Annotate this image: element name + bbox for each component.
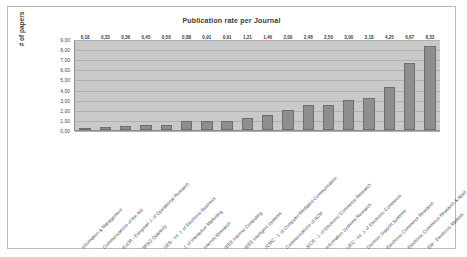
y-axis-tick-label: 6,00 — [60, 67, 70, 73]
chart-frame: Publication rate per Journal # of papers… — [7, 6, 456, 249]
bar[interactable]: 0,91 — [201, 121, 212, 130]
x-axis-tick-label: Information & Management — [81, 207, 124, 250]
bar-column[interactable]: 0,33 — [95, 40, 115, 130]
bar[interactable]: 0,36 — [120, 126, 131, 130]
bar[interactable]: 0,50 — [161, 125, 172, 130]
bar[interactable]: 1,21 — [242, 118, 253, 130]
bar-column[interactable]: 1,46 — [258, 40, 278, 130]
bar-value-label: 0,50 — [162, 35, 171, 40]
x-axis-tick-label: Decision Support Systems — [365, 208, 407, 250]
bar-value-label: 0,33 — [101, 35, 110, 40]
bar-column[interactable]: 0,91 — [217, 40, 237, 130]
x-axis-tick-label: Communications of the AIS — [101, 207, 144, 250]
y-axis-tick-label: 4,00 — [60, 88, 70, 94]
bar[interactable]: 0,91 — [221, 121, 232, 130]
y-axis-title: # of papers — [18, 0, 25, 59]
x-axis-tick-label: EM - Electronic Markets — [426, 212, 464, 250]
plot-area-wrapper: 9,008,007,006,005,004,003,002,001,000,00… — [55, 40, 440, 131]
bar[interactable]: 4,25 — [384, 87, 395, 130]
bar-column[interactable]: 2,00 — [278, 40, 298, 130]
bar-column[interactable]: 4,25 — [379, 40, 399, 130]
x-axis-label-slot: Electronic Commerce Research & Apps — [410, 249, 411, 250]
x-axis-label-slot: JECR - J. of Electronic Commerce Researc… — [308, 249, 309, 250]
x-axis-label-slot: IJEC - Int. J. of Electronic Commerce — [349, 249, 350, 250]
bar-value-label: 0,91 — [202, 35, 211, 40]
x-axis-label-slot: J. of Interactive Marketing — [186, 249, 187, 250]
bar[interactable]: 0,33 — [100, 127, 111, 130]
x-axis-tick-label: J. of Interactive Marketing — [182, 209, 223, 250]
bar-column[interactable]: 8,33 — [420, 40, 440, 130]
bar-value-label: 8,33 — [425, 35, 434, 40]
bar[interactable]: 2,00 — [282, 110, 293, 130]
chart-title: Publication rate per Journal — [8, 17, 455, 24]
y-axis: 9,008,007,006,005,004,003,002,001,000,00 — [55, 40, 72, 131]
bar-column[interactable]: 0,18 — [75, 40, 95, 130]
x-axis-label-slot: EM - Electronic Markets — [430, 249, 431, 250]
bar-value-label: 3,18 — [365, 35, 374, 40]
x-axis-label-slot: Information & Management — [84, 249, 85, 250]
bar[interactable]: 2,48 — [303, 105, 314, 130]
x-axis-label-slot: Information Systems Research — [328, 249, 329, 250]
x-axis-label-slot: MISQ Quarterly — [145, 249, 146, 250]
bar-value-label: 0,91 — [223, 35, 232, 40]
bar-value-label: 1,46 — [263, 35, 272, 40]
bar-value-label: 0,88 — [182, 35, 191, 40]
bar-value-label: 3,00 — [344, 35, 353, 40]
bar-column[interactable]: 6,67 — [400, 40, 420, 130]
bar[interactable]: 3,00 — [343, 100, 354, 130]
bar-value-label: 0,18 — [81, 35, 90, 40]
x-axis-label-slot: Communications of the AIS — [105, 249, 106, 250]
y-axis-tick-label: 1,00 — [60, 118, 70, 124]
x-axis-label-slot: Electronic Commerce Research — [389, 249, 390, 250]
y-axis-tick-label: 8,00 — [60, 47, 70, 53]
bar-value-label: 0,36 — [121, 35, 130, 40]
bar-value-label: 0,45 — [142, 35, 151, 40]
x-axis-tick-label: IEEE Intelligent Systems — [243, 211, 282, 250]
x-axis-label-slot: Decision Support Systems — [369, 249, 370, 250]
x-axis-label-slot: IEEE Internet Computing — [227, 249, 228, 250]
bar[interactable]: 8,33 — [424, 46, 435, 130]
y-axis-tick-label: 0,00 — [60, 128, 70, 134]
bar-series: 0,180,330,360,450,500,880,910,911,211,46… — [75, 40, 440, 130]
bar-column[interactable]: 0,36 — [116, 40, 136, 130]
bar[interactable]: 1,46 — [262, 115, 273, 130]
bar-value-label: 2,48 — [304, 35, 313, 40]
x-axis-label-slot: JCMC - J. of Computer-Mediated Communica… — [267, 249, 268, 250]
y-axis-tick-label: 7,00 — [60, 57, 70, 63]
bar-value-label: 4,25 — [385, 35, 394, 40]
bar-value-label: 2,50 — [324, 35, 333, 40]
y-axis-tick-label: 5,00 — [60, 77, 70, 83]
bar-column[interactable]: 3,00 — [339, 40, 359, 130]
plot-area: 0,180,330,360,450,500,880,910,911,211,46… — [74, 40, 440, 131]
bar-value-label: 1,21 — [243, 35, 252, 40]
bar[interactable]: 6,67 — [404, 63, 415, 130]
bar-column[interactable]: 0,88 — [176, 40, 196, 130]
x-axis-label-slot: IJEB - Int. J. of Electronic Business — [166, 249, 167, 250]
bar-column[interactable]: 2,50 — [318, 40, 338, 130]
bar-value-label: 6,67 — [405, 35, 414, 40]
bar-column[interactable]: 0,45 — [136, 40, 156, 130]
bar[interactable]: 0,45 — [140, 125, 151, 130]
bar[interactable]: 3,18 — [363, 98, 374, 130]
y-axis-tick-label: 3,00 — [60, 98, 70, 104]
x-axis-label-slot: EJOR - European J. of Operational Resear… — [125, 249, 126, 250]
bar-column[interactable]: 2,48 — [298, 40, 318, 130]
x-axis-tick-label: JCMC - J. of Computer-Mediated Communica… — [264, 175, 339, 250]
x-axis-label-slot: Communications of ACM — [288, 249, 289, 250]
bar[interactable]: 0,18 — [79, 128, 90, 130]
bar[interactable]: 0,88 — [181, 121, 192, 130]
bar-column[interactable]: 0,91 — [197, 40, 217, 130]
x-axis-category-labels: Information & ManagementCommunications o… — [74, 132, 459, 250]
x-axis-label-slot: Internet Research — [206, 249, 207, 250]
x-axis-tick-label: Communications of ACM — [284, 211, 323, 250]
x-axis-label-slot: IEEE Intelligent Systems — [247, 249, 248, 250]
bar-value-label: 2,00 — [283, 35, 292, 40]
bar-column[interactable]: 3,18 — [359, 40, 379, 130]
bar-column[interactable]: 1,21 — [237, 40, 257, 130]
x-axis-tick-label: IEEE Internet Computing — [223, 211, 262, 250]
bar-column[interactable]: 0,50 — [156, 40, 176, 130]
y-axis-tick-label: 2,00 — [60, 108, 70, 114]
bar[interactable]: 2,50 — [323, 105, 334, 130]
y-axis-tick-label: 9,00 — [60, 37, 70, 43]
